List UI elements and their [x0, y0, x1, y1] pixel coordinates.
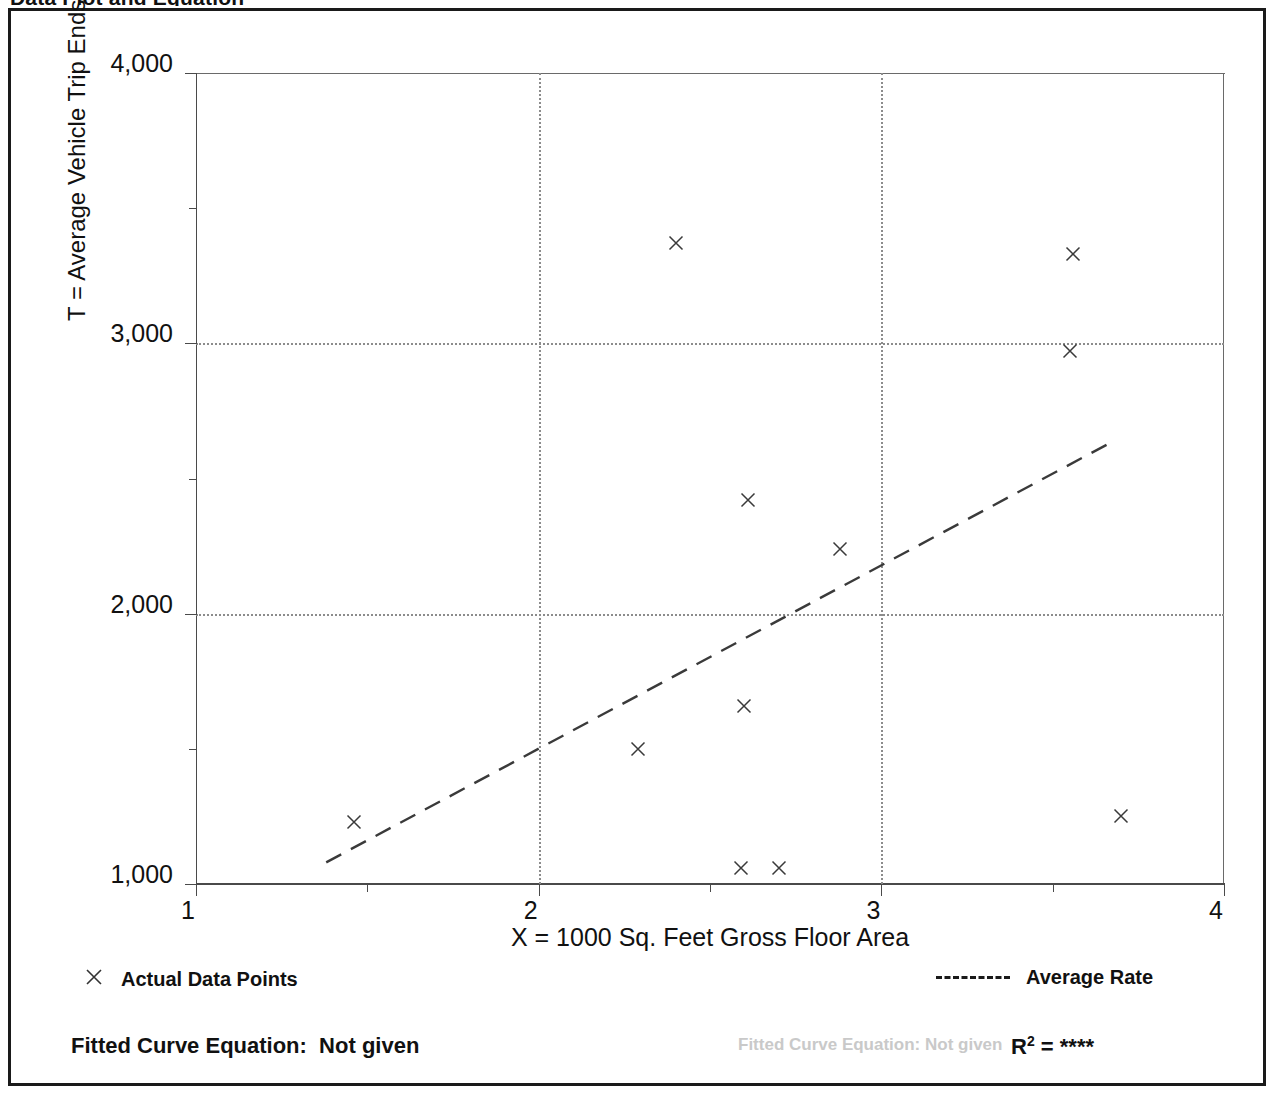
scan-artifact-text: Fitted Curve Equation: Not given [738, 1035, 1002, 1055]
x-tick-minor [1053, 884, 1054, 892]
r-squared-number: = **** [1035, 1034, 1094, 1059]
y-axis-title: T = Average Vehicle Trip Ends [63, 281, 91, 321]
y-tick-label: 1,000 [53, 860, 173, 889]
x-tick-minor [710, 884, 711, 892]
legend-label-actual-data-points: Actual Data Points [121, 968, 298, 991]
x-axis-title: X = 1000 Sq. Feet Gross Floor Area [196, 923, 1224, 952]
x-tick-minor [367, 884, 368, 892]
gridline-vertical [539, 73, 541, 884]
fitted-curve-equation: Fitted Curve Equation: Not given [71, 1033, 419, 1059]
x-tick-major [1224, 884, 1225, 896]
x-tick-major [539, 884, 540, 896]
data-point-marker [1060, 341, 1080, 361]
plot-frame-right [1223, 73, 1224, 884]
y-tick-label: 3,000 [53, 319, 173, 348]
page-title: Data Plot and Equation [10, 0, 244, 6]
y-tick-minor [189, 479, 197, 480]
data-point-marker [769, 858, 789, 878]
x-tick-label: 3 [843, 896, 903, 925]
legend-item-average-rate: Average Rate [936, 966, 1153, 989]
r-squared-exponent: 2 [1027, 1033, 1035, 1049]
y-tick-major [185, 73, 197, 74]
plot-area [196, 73, 1224, 884]
data-point-marker [1063, 244, 1083, 264]
data-point-marker [1111, 806, 1131, 826]
figure-frame: 1,0002,0003,0004,000 1234 T = Average Ve… [8, 8, 1266, 1086]
data-point-marker [666, 233, 686, 253]
y-tick-minor [189, 208, 197, 209]
y-tick-major [185, 614, 197, 615]
gridline-horizontal [196, 614, 1224, 616]
x-tick-major [881, 884, 882, 896]
x-marker-icon [83, 966, 105, 992]
legend: Actual Data Points Average Rate [11, 966, 1269, 1006]
data-point-marker [628, 739, 648, 759]
y-tick-minor [189, 749, 197, 750]
r-squared-prefix: R [1011, 1034, 1027, 1059]
data-point-marker [830, 539, 850, 559]
data-point-marker [344, 812, 364, 832]
y-tick-major [185, 343, 197, 344]
average-rate-trend-line [196, 73, 1224, 884]
r-squared-value: R2 = **** [1011, 1033, 1094, 1060]
x-tick-major [196, 884, 197, 896]
plot-frame-top [196, 73, 1225, 74]
x-tick-label: 2 [501, 896, 561, 925]
footer: Fitted Curve Equation: Not given R2 = **… [11, 1033, 1269, 1073]
dashed-line-icon [936, 976, 1010, 979]
data-point-marker [738, 490, 758, 510]
x-tick-label: 4 [1186, 896, 1246, 925]
data-point-marker [734, 696, 754, 716]
data-point-marker [731, 858, 751, 878]
legend-item-actual-data-points: Actual Data Points [83, 966, 298, 992]
y-tick-label: 2,000 [53, 590, 173, 619]
x-tick-label: 1 [158, 896, 218, 925]
legend-label-average-rate: Average Rate [1026, 966, 1153, 989]
gridline-vertical [881, 73, 883, 884]
